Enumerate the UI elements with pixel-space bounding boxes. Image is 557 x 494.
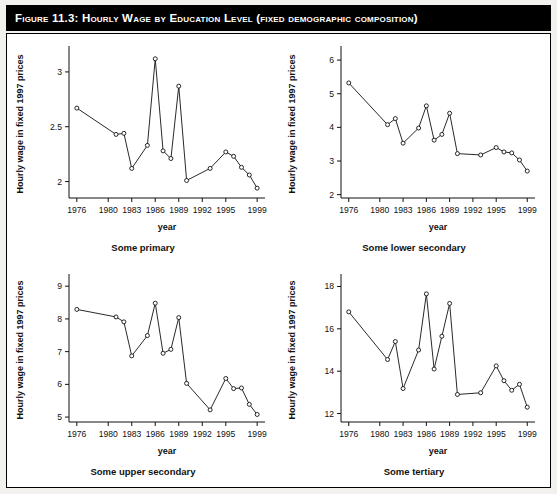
- x-axis-label: year: [158, 446, 177, 456]
- data-point: [185, 178, 189, 182]
- y-axis-ticks: 56789: [57, 281, 69, 422]
- y-tick-label: 5: [57, 412, 62, 422]
- x-tick-label: 1980: [99, 429, 118, 439]
- x-tick-label: 1976: [339, 429, 358, 439]
- data-point: [114, 315, 118, 319]
- y-tick-label: 3: [57, 67, 62, 77]
- x-tick-label: 1986: [417, 429, 436, 439]
- data-point: [161, 351, 165, 355]
- data-point: [75, 307, 79, 311]
- data-point: [347, 81, 351, 85]
- data-point: [494, 146, 498, 150]
- x-tick-label: 1976: [67, 429, 86, 439]
- data-point: [75, 106, 79, 110]
- axes: [341, 46, 535, 198]
- x-axis-ticks: 19761980198319861989199219951999: [67, 198, 267, 215]
- data-markers: [75, 301, 259, 416]
- x-tick-label: 1989: [169, 205, 188, 215]
- data-point: [161, 149, 165, 153]
- y-tick-label: 12: [324, 409, 334, 419]
- data-line: [349, 294, 527, 407]
- data-point: [424, 104, 428, 108]
- data-point: [224, 150, 228, 154]
- data-point: [145, 143, 149, 147]
- chart-svg: 1976198019831986198919921995199912141618…: [279, 262, 549, 486]
- y-axis-label: Hourly wage in fixed 1997 prices: [15, 54, 25, 193]
- y-tick-label: 2: [57, 177, 62, 187]
- x-tick-label: 1980: [370, 429, 389, 439]
- data-point: [255, 186, 259, 190]
- data-point: [525, 169, 529, 173]
- data-point: [510, 151, 514, 155]
- data-markers: [347, 292, 529, 409]
- x-axis-ticks: 19761980198319861989199219951999: [339, 198, 537, 215]
- x-tick-label: 1980: [99, 205, 118, 215]
- y-tick-label: 4: [329, 122, 334, 132]
- x-axis-label: year: [158, 222, 177, 232]
- x-axis-ticks: 19761980198319861989199219951999: [67, 422, 267, 439]
- y-axis-ticks: 12141618: [324, 281, 341, 418]
- data-point: [393, 117, 397, 121]
- data-point: [145, 334, 149, 338]
- data-line: [349, 83, 527, 171]
- y-tick-label: 2: [329, 190, 334, 200]
- x-tick-label: 1992: [463, 205, 482, 215]
- x-tick-label: 1999: [518, 205, 537, 215]
- data-point: [494, 364, 498, 368]
- y-axis-label: Hourly wage in fixed 1997 prices: [287, 54, 297, 193]
- figure-page: Figure 11.3: Hourly Wage by Education Le…: [0, 0, 557, 494]
- y-tick-label: 14: [324, 366, 334, 376]
- x-tick-label: 1976: [339, 205, 358, 215]
- y-tick-label: 16: [324, 324, 334, 334]
- data-point: [440, 334, 444, 338]
- panel-some-upper-secondary: 1976198019831986198919921995199956789yea…: [7, 262, 279, 486]
- data-point: [517, 158, 521, 162]
- y-axis-ticks: 23456: [329, 55, 341, 200]
- data-point: [224, 376, 228, 380]
- x-tick-label: 1999: [248, 429, 267, 439]
- y-tick-label: 18: [324, 281, 334, 291]
- data-point: [517, 382, 521, 386]
- data-point: [239, 386, 243, 390]
- data-point: [208, 408, 212, 412]
- x-tick-label: 1995: [487, 429, 506, 439]
- x-axis-label: year: [429, 446, 448, 456]
- panel-caption: Some upper secondary: [7, 466, 279, 477]
- x-tick-label: 1992: [193, 429, 212, 439]
- data-point: [386, 358, 390, 362]
- x-tick-label: 1989: [169, 429, 188, 439]
- data-point: [185, 381, 189, 385]
- x-axis-ticks: 19761980198319861989199219951999: [339, 422, 537, 439]
- data-point: [114, 132, 118, 136]
- data-point: [122, 131, 126, 135]
- panel-caption: Some primary: [7, 242, 279, 253]
- data-point: [448, 301, 452, 305]
- x-tick-label: 1983: [122, 429, 141, 439]
- data-point: [255, 412, 259, 416]
- x-axis-label: year: [429, 222, 448, 232]
- data-point: [232, 387, 236, 391]
- data-point: [502, 379, 506, 383]
- axes: [69, 274, 265, 422]
- data-point: [510, 388, 514, 392]
- data-line: [77, 59, 257, 188]
- data-point: [401, 141, 405, 145]
- y-axis-label: Hourly wage in fixed 1997 prices: [287, 280, 297, 419]
- y-tick-label: 5: [329, 89, 334, 99]
- data-point: [393, 340, 397, 344]
- axes: [69, 46, 265, 198]
- data-point: [479, 391, 483, 395]
- data-point: [479, 153, 483, 157]
- y-tick-label: 3: [329, 156, 334, 166]
- x-tick-label: 1999: [518, 429, 537, 439]
- x-tick-label: 1995: [216, 429, 235, 439]
- y-tick-label: 6: [329, 55, 334, 65]
- y-tick-label: 2.5: [50, 122, 62, 132]
- panel-caption: Some lower secondary: [279, 242, 549, 253]
- data-point: [455, 152, 459, 156]
- x-tick-label: 1986: [417, 205, 436, 215]
- data-point: [502, 150, 506, 154]
- chart-svg: 1976198019831986198919921995199922.53yea…: [7, 34, 279, 262]
- data-point: [177, 84, 181, 88]
- data-markers: [347, 81, 529, 173]
